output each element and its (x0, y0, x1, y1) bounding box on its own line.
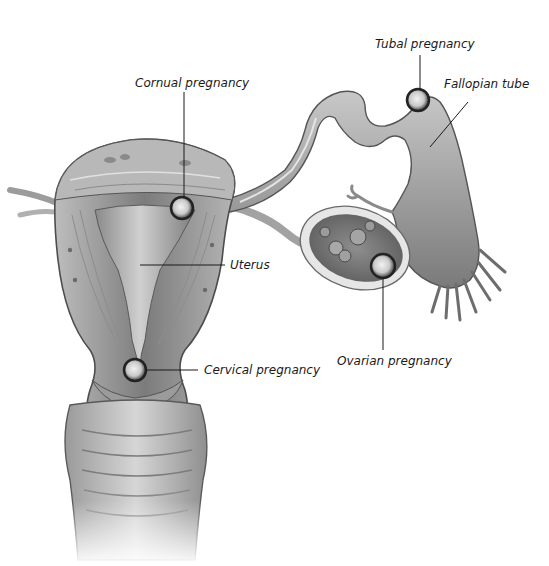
label-cornual-pregnancy: Cornual pregnancy (135, 77, 249, 89)
label-fallopian-tube: Fallopian tube (444, 78, 529, 90)
cornual-sac-icon (171, 197, 193, 219)
label-ovarian-pregnancy: Ovarian pregnancy (337, 355, 452, 367)
tubal-sac-icon (407, 89, 429, 111)
uterus (55, 139, 235, 420)
ovarian-sac-icon (371, 254, 395, 278)
cervical-sac-icon (124, 359, 146, 381)
label-uterus: Uterus (230, 259, 270, 271)
vagina (60, 400, 220, 566)
ectopic-pregnancy-diagram: Cornual pregnancy Tubal pregnancy Fallop… (0, 0, 549, 566)
label-cervical-pregnancy: Cervical pregnancy (204, 364, 320, 376)
label-tubal-pregnancy: Tubal pregnancy (375, 38, 475, 50)
